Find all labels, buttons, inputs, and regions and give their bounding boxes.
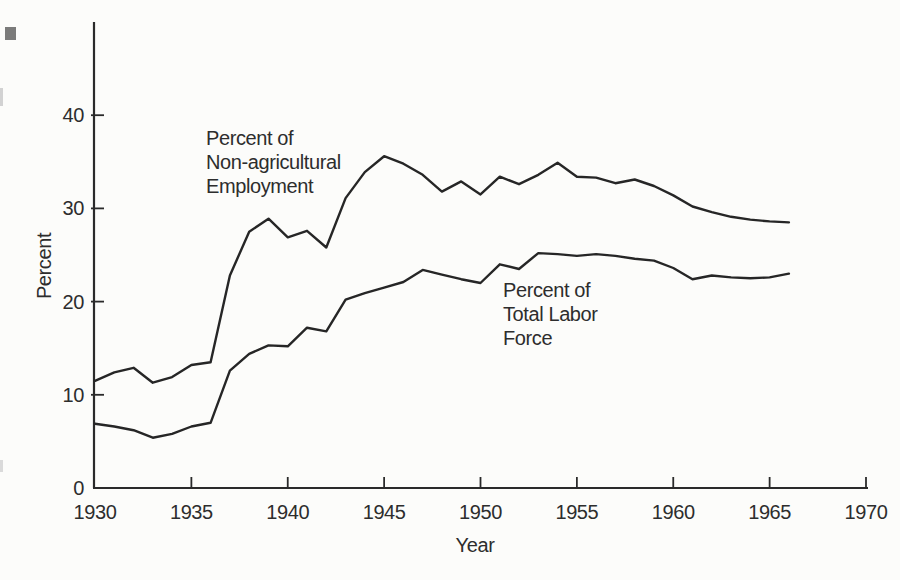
annotation-line: Total Labor xyxy=(503,302,598,326)
y-tick-label: 30 xyxy=(36,196,84,220)
x-tick-label: 1950 xyxy=(451,500,511,524)
scan-artifact-mark xyxy=(5,27,16,40)
annotation-line: Percent of xyxy=(503,278,598,302)
x-tick-label: 1970 xyxy=(836,500,896,524)
x-tick-label: 1930 xyxy=(65,500,125,524)
y-tick-label: 40 xyxy=(36,103,84,127)
chart-canvas xyxy=(0,0,900,580)
y-axis-title: Percent xyxy=(32,233,56,299)
x-tick-label: 1960 xyxy=(643,500,703,524)
series-line-total-labor-force xyxy=(95,253,789,438)
chart-area: 0102030401930193519401945195019551960196… xyxy=(0,0,900,580)
x-tick-label: 1955 xyxy=(547,500,607,524)
annotation-line: Percent of xyxy=(206,126,341,150)
y-tick-label: 10 xyxy=(36,383,84,407)
scanned-chart-page: 0102030401930193519401945195019551960196… xyxy=(0,0,900,580)
x-axis-title: Year xyxy=(456,533,495,557)
x-tick-label: 1965 xyxy=(740,500,800,524)
annotation-total-labor-force: Percent of Total Labor Force xyxy=(503,278,598,350)
annotation-line: Employment xyxy=(206,174,341,198)
x-tick-label: 1935 xyxy=(161,500,221,524)
annotation-nonagricultural-employment: Percent of Non-agricultural Employment xyxy=(206,126,341,198)
annotation-line: Force xyxy=(503,326,598,350)
series-line-nonagricultural-employment xyxy=(95,156,789,383)
y-tick-label: 0 xyxy=(36,476,84,500)
x-tick-label: 1945 xyxy=(354,500,414,524)
scan-artifact-smudge xyxy=(0,460,3,472)
x-tick-label: 1940 xyxy=(258,500,318,524)
series-lines-group xyxy=(95,156,789,438)
annotation-line: Non-agricultural xyxy=(206,150,341,174)
scan-artifact-smudge xyxy=(0,88,3,106)
